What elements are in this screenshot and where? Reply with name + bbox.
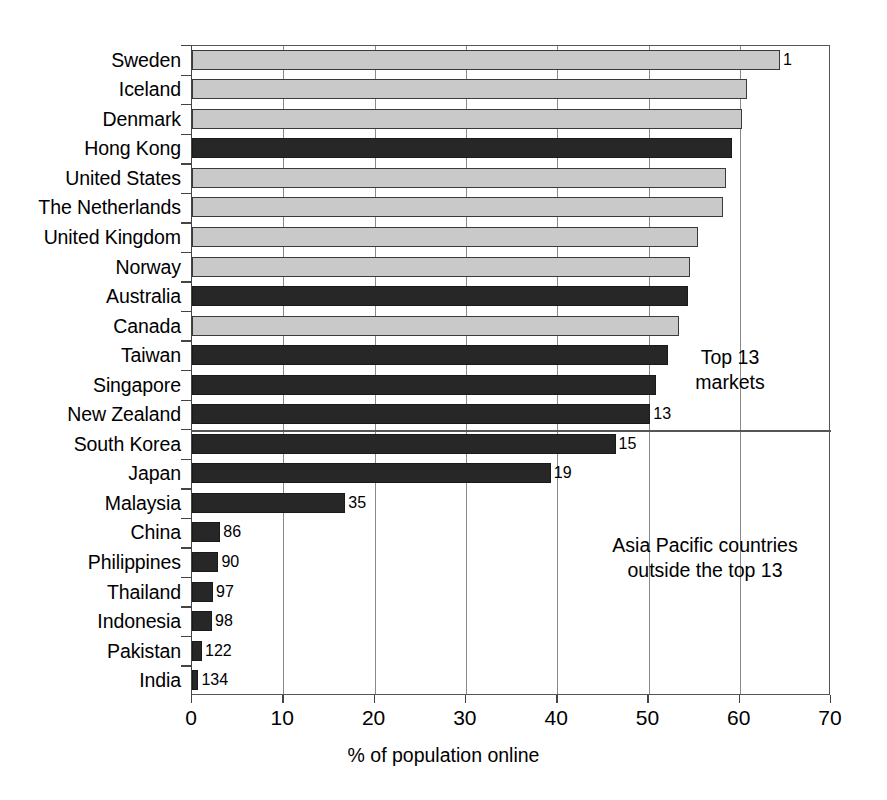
rank-label: 90 <box>221 553 239 571</box>
bar <box>192 286 688 306</box>
rank-label: 15 <box>619 435 637 453</box>
y-axis-tick <box>181 311 191 312</box>
rank-label: 86 <box>223 523 241 541</box>
bar-row: Iceland <box>0 75 887 105</box>
category-label: South Korea <box>74 432 181 455</box>
rank-label: 35 <box>348 494 366 512</box>
category-label: Canada <box>113 314 181 337</box>
x-axis-tick-label: 40 <box>544 706 567 730</box>
bar <box>192 552 218 572</box>
category-label: Iceland <box>119 78 181 101</box>
bar-row: Hong Kong <box>0 134 887 164</box>
category-label: Sweden <box>111 48 181 71</box>
bar-chart: Sweden1IcelandDenmarkHong KongUnited Sta… <box>0 0 887 800</box>
category-label: Australia <box>106 285 181 308</box>
bar <box>192 493 345 513</box>
y-axis-tick <box>181 75 191 76</box>
bar-row: United Kingdom <box>0 222 887 252</box>
y-axis-tick <box>181 340 191 341</box>
rank-label: 1 <box>783 51 792 69</box>
category-label: United States <box>65 166 181 189</box>
y-axis-tick <box>181 104 191 105</box>
bar <box>192 316 679 336</box>
x-axis-title: % of population online <box>0 744 887 767</box>
x-axis-tick <box>830 695 831 703</box>
y-axis-tick <box>181 459 191 460</box>
category-label: Norway <box>116 255 182 278</box>
rank-label: 122 <box>205 642 232 660</box>
rank-label: 98 <box>215 612 233 630</box>
y-axis-tick <box>181 518 191 519</box>
y-axis-tick <box>181 400 191 401</box>
bar-row: New Zealand13 <box>0 400 887 430</box>
category-label: Philippines <box>88 551 181 574</box>
x-axis-tick-label: 60 <box>727 706 750 730</box>
bar-row: Australia <box>0 281 887 311</box>
bar-row: Japan19 <box>0 459 887 489</box>
x-axis-tick-label: 10 <box>271 706 294 730</box>
y-axis-tick <box>181 45 191 46</box>
bar <box>192 463 551 483</box>
category-label: Japan <box>128 462 181 485</box>
bar-row: India134 <box>0 665 887 695</box>
x-axis-tick-label: 50 <box>636 706 659 730</box>
bar <box>192 109 742 129</box>
category-label: Hong Kong <box>84 137 181 160</box>
bar <box>192 257 690 277</box>
bar <box>192 641 202 661</box>
y-axis-tick <box>181 429 191 430</box>
bar <box>192 670 198 690</box>
rank-label: 134 <box>201 671 228 689</box>
category-label: Singapore <box>93 373 181 396</box>
category-label: China <box>131 521 181 544</box>
bar-row: Sweden1 <box>0 45 887 75</box>
rank-label: 19 <box>554 464 572 482</box>
y-axis-tick <box>181 193 191 194</box>
bar-row: Pakistan122 <box>0 636 887 666</box>
bar-row: South Korea15 <box>0 429 887 459</box>
bar <box>192 138 732 158</box>
bar-row: Denmark <box>0 104 887 134</box>
category-label: United Kingdom <box>44 226 181 249</box>
bar <box>192 227 698 247</box>
bar-row: Norway <box>0 252 887 282</box>
bar <box>192 582 213 602</box>
y-axis-tick <box>181 134 191 135</box>
category-label: New Zealand <box>67 403 181 426</box>
y-axis-tick <box>181 636 191 637</box>
bar-row: Canada <box>0 311 887 341</box>
annotation-top-13: Top 13 markets <box>640 345 820 395</box>
y-axis-tick <box>181 370 191 371</box>
category-label: Denmark <box>103 107 181 130</box>
rank-label: 97 <box>216 583 234 601</box>
category-label: India <box>139 669 181 692</box>
y-axis-tick <box>181 488 191 489</box>
x-axis-tick-label: 0 <box>185 706 197 730</box>
x-axis-tick <box>282 695 283 703</box>
y-axis-tick <box>181 577 191 578</box>
annotation-asia-pacific: Asia Pacific countries outside the top 1… <box>560 533 850 583</box>
category-label: Pakistan <box>107 639 181 662</box>
y-axis-tick <box>181 252 191 253</box>
x-axis-tick-label: 20 <box>362 706 385 730</box>
rank-label: 13 <box>653 405 671 423</box>
x-axis-tick <box>465 695 466 703</box>
bar-row: Malaysia35 <box>0 488 887 518</box>
bar <box>192 404 650 424</box>
x-axis-tick-label: 30 <box>453 706 476 730</box>
category-label: The Netherlands <box>38 196 181 219</box>
bar-row: Indonesia98 <box>0 606 887 636</box>
y-axis-tick <box>181 665 191 666</box>
x-axis-tick <box>556 695 557 703</box>
bar <box>192 434 616 454</box>
y-axis-tick <box>181 163 191 164</box>
category-label: Indonesia <box>97 610 181 633</box>
y-axis-tick <box>181 547 191 548</box>
x-axis-tick-label: 70 <box>818 706 841 730</box>
bar <box>192 79 747 99</box>
category-label: Malaysia <box>105 491 181 514</box>
category-label: Taiwan <box>121 344 181 367</box>
bar <box>192 168 726 188</box>
x-axis-tick <box>191 695 192 703</box>
bar <box>192 50 780 70</box>
